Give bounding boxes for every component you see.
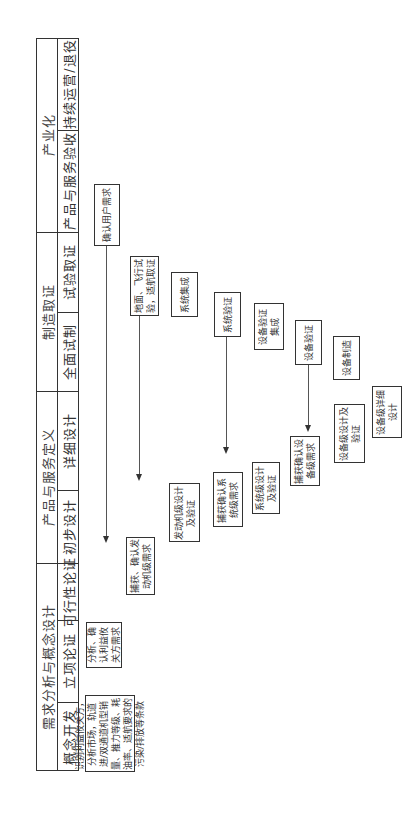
arrow-flight-test-to-engine bbox=[139, 316, 140, 476]
box-system-integration: 系统集成 bbox=[171, 272, 198, 317]
group-product-service-definition: 产品与服务定义 bbox=[36, 391, 57, 563]
phase-test-certification: 试验取证 bbox=[57, 232, 79, 312]
box-concept-development: 识别利益攸关方，分析市场，轨道进/双通道机型销量、推力等级、耗油率、适航要求的污… bbox=[85, 695, 135, 772]
arrowhead-icon bbox=[223, 447, 229, 454]
phase-full-trial-production: 全面试制 bbox=[57, 312, 79, 391]
group-requirements-concept: 需求分析与概念设计 bbox=[36, 563, 57, 771]
box-engine-design-verification: 发动机级设计及验证 bbox=[169, 483, 200, 542]
group-commercialization: 产业化 bbox=[36, 38, 57, 232]
phase-feasibility: 可行性论证 bbox=[57, 563, 79, 620]
arrow-user-req-to-stakeholder bbox=[106, 246, 107, 538]
phase-acceptance: 产品与服务验收 bbox=[57, 130, 79, 232]
box-system-verification: 系统验证 bbox=[214, 292, 241, 337]
box-system-design-verification: 系统级设计及验证 bbox=[252, 462, 280, 514]
box-ground-flight-test: 地面、飞行试验，适航取证 bbox=[130, 256, 159, 316]
box-equipment-detailed-design: 设备级详细设计 bbox=[372, 386, 402, 438]
box-capture-engine-requirements: 捕获、确认发动机级需求 bbox=[126, 537, 155, 595]
box-equipment-verification-integration: 设备验证集成 bbox=[254, 303, 284, 350]
group-manufacturing-certification: 制造取证 bbox=[36, 232, 57, 391]
box-capture-system-requirements: 捕获确认系统级需求 bbox=[213, 472, 243, 527]
box-equipment-verification: 设备验证 bbox=[295, 320, 322, 365]
arrowhead-icon bbox=[103, 536, 109, 543]
box-equipment-design-verification: 设备级设计及验证 bbox=[334, 404, 365, 463]
box-equipment-manufacturing: 设备制造 bbox=[333, 336, 360, 380]
phase-preliminary-design: 初步设计 bbox=[57, 490, 79, 563]
phase-project-demonstration: 立项论证 bbox=[57, 620, 79, 702]
box-capture-equipment-requirements: 捕获确认设备级需求 bbox=[290, 436, 320, 486]
phase-operation-retirement: 持续运营/退役 bbox=[57, 38, 79, 130]
arrowhead-icon bbox=[305, 425, 311, 432]
box-confirm-user-requirements: 确认用户需求 bbox=[94, 184, 120, 246]
arrow-equipment-verify-to-equipment-req bbox=[308, 365, 309, 427]
phase-detailed-design: 详细设计 bbox=[57, 391, 79, 490]
arrowhead-icon bbox=[136, 474, 142, 481]
box-project-demonstration: 分析、确认利益攸关方需求 bbox=[86, 622, 122, 668]
arrow-system-verify-to-system-req bbox=[226, 337, 227, 449]
